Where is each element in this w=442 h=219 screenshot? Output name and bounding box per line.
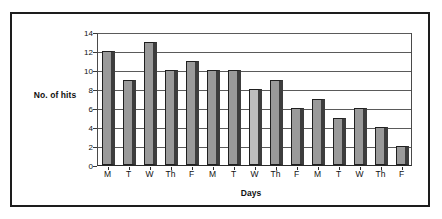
bar: [207, 70, 220, 165]
x-axis-tick-mark: [192, 167, 193, 170]
x-axis-tick-mark: [381, 167, 382, 170]
bar: [270, 80, 283, 166]
bar: [312, 99, 325, 166]
x-axis-tick-label: W: [145, 169, 153, 179]
y-axis-tick-label: 0: [75, 162, 93, 171]
x-axis-tick-mark: [150, 167, 151, 170]
x-axis-tick-label: W: [355, 169, 363, 179]
gridline: [98, 33, 411, 34]
y-axis-tick-mark: [93, 52, 97, 53]
y-axis-tick-labels: 02468101214: [71, 33, 93, 166]
x-axis-tick-label: F: [399, 169, 404, 179]
x-axis-tick-label: W: [250, 169, 258, 179]
x-axis-tick-mark: [171, 167, 172, 170]
y-axis-tick-mark: [93, 109, 97, 110]
y-axis-tick-label: 12: [75, 48, 93, 57]
y-axis-tick-mark: [93, 147, 97, 148]
y-axis-tick-mark: [93, 166, 97, 167]
bar: [375, 127, 388, 165]
bar: [186, 61, 199, 166]
y-axis-tick-label: 6: [75, 105, 93, 114]
x-axis-tick-mark: [339, 167, 340, 170]
y-axis-tick-mark: [93, 128, 97, 129]
bar: [333, 118, 346, 166]
y-axis-tick-label: 8: [75, 86, 93, 95]
bar: [123, 80, 136, 166]
x-axis-title: Days: [90, 188, 412, 198]
bar: [144, 42, 157, 166]
x-axis-tick-mark: [213, 167, 214, 170]
x-axis-tick-label: F: [294, 169, 299, 179]
x-axis-tick-mark: [129, 167, 130, 170]
bar: [102, 51, 115, 165]
x-axis-tick-mark: [255, 167, 256, 170]
chart-screenshot: No. of hits 02468101214 MTWThFMTWThFMTWT…: [0, 0, 442, 219]
x-axis-tick-mark: [360, 167, 361, 170]
x-axis-tick-label: T: [336, 169, 341, 179]
x-axis-tick-labels: MTWThFMTWThFMTWThF: [97, 169, 412, 185]
x-axis-tick-label: M: [209, 169, 216, 179]
x-axis-tick-label: Th: [166, 169, 176, 179]
bar: [249, 89, 262, 165]
x-axis-tick-label: Th: [271, 169, 281, 179]
x-axis-tick-label: T: [126, 169, 131, 179]
x-axis-tick-mark: [108, 167, 109, 170]
bar: [165, 70, 178, 165]
y-axis-tick-label: 2: [75, 143, 93, 152]
x-axis-tick-label: M: [104, 169, 111, 179]
plot-area: [97, 33, 412, 166]
x-axis-tick-mark: [318, 167, 319, 170]
x-axis-tick-label: M: [314, 169, 321, 179]
x-axis-tick-mark: [276, 167, 277, 170]
y-axis-tick-mark: [93, 90, 97, 91]
x-axis-tick-mark: [297, 167, 298, 170]
x-axis-tick-mark: [234, 167, 235, 170]
bar: [396, 146, 409, 165]
bar: [228, 70, 241, 165]
y-axis-tick-mark: [93, 33, 97, 34]
x-axis-tick-mark: [402, 167, 403, 170]
bar: [291, 108, 304, 165]
y-axis-tick-label: 14: [75, 29, 93, 38]
y-axis-tick-label: 10: [75, 67, 93, 76]
bar: [354, 108, 367, 165]
x-axis-tick-label: F: [189, 169, 194, 179]
y-axis-tick-label: 4: [75, 124, 93, 133]
y-axis-tick-mark: [93, 71, 97, 72]
x-axis-tick-label: Th: [376, 169, 386, 179]
x-axis-tick-label: T: [231, 169, 236, 179]
